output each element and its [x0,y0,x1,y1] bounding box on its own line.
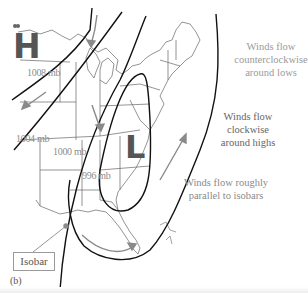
isobar-label-1008: 1008 mb [27,67,60,78]
high-pressure-symbol: H [13,27,41,66]
annotation-lows-line-1: Winds flow [228,40,308,53]
annotation-lows: Winds flow counterclockwise around lows [228,40,308,79]
annotation-lows-line-3: around lows [228,66,308,79]
annotation-highs-line-3: around highs [218,136,278,149]
annotation-parallel-line-1: Winds flow roughly [178,176,274,189]
isobar-label-996: 996 mb [82,170,110,181]
isobar-callout-label: Isobar [13,252,55,271]
annotation-parallel: Winds flow roughly parallel to isobars [178,176,274,202]
annotation-highs: Winds flow clockwise around highs [218,110,278,149]
weather-map-diagram: H L 1008 mb 1004 mb 1000 mb 996 mb Winds… [0,0,308,293]
annotation-parallel-line-2: parallel to isobars [178,189,274,202]
annotation-highs-line-1: Winds flow [218,110,278,123]
isobar-label-1004: 1004 mb [16,133,49,144]
isobars [12,8,218,290]
annotation-highs-line-2: clockwise [218,123,278,136]
panel-label: (b) [10,275,22,286]
annotation-lows-line-2: counterclockwise [228,53,308,66]
bottom-edge [0,287,308,293]
isobar-label-1000: 1000 mb [53,146,86,157]
low-pressure-symbol: L [125,128,145,166]
